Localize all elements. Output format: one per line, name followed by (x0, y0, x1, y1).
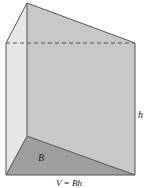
base-label: B (38, 152, 44, 163)
prism-diagram: B h V = Bh (0, 0, 146, 188)
formula-label: V = Bh (56, 178, 82, 188)
height-label: h (138, 109, 143, 120)
